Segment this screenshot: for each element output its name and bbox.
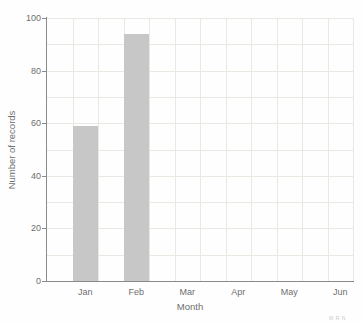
v-gridline — [175, 18, 176, 281]
bar-jan — [73, 126, 99, 281]
bar-feb — [124, 34, 150, 281]
y-tick-mark — [42, 71, 46, 72]
y-tick-mark — [42, 18, 46, 19]
y-tick-label: 40 — [12, 171, 41, 181]
x-tick-label-apr: Apr — [217, 287, 259, 297]
v-gridline — [328, 18, 329, 281]
x-tick-label-mar: Mar — [166, 287, 208, 297]
x-tick-label-may: May — [268, 287, 310, 297]
v-gridline — [200, 18, 201, 281]
y-axis-line — [46, 17, 47, 282]
y-tick-mark — [42, 281, 46, 282]
v-gridline — [251, 18, 252, 281]
v-gridline — [353, 18, 354, 281]
v-gridline — [226, 18, 227, 281]
y-tick-label: 0 — [12, 276, 41, 286]
x-tick-label-feb: Feb — [115, 287, 157, 297]
y-tick-label: 100 — [12, 13, 41, 23]
x-tick-label-jun: Jun — [319, 287, 361, 297]
y-tick-mark — [42, 228, 46, 229]
v-gridline — [302, 18, 303, 281]
v-gridline — [149, 18, 150, 281]
x-axis-line — [46, 281, 354, 282]
v-gridline — [277, 18, 278, 281]
corner-watermark: MRN — [329, 315, 348, 321]
y-tick-mark — [42, 176, 46, 177]
y-tick-mark — [42, 123, 46, 124]
bar-chart-figure: Number of records Month MRN 020406080100… — [0, 0, 363, 323]
y-tick-label: 80 — [12, 66, 41, 76]
v-gridline — [98, 18, 99, 281]
y-tick-label: 20 — [12, 223, 41, 233]
plot-area — [47, 18, 353, 281]
y-tick-label: 60 — [12, 118, 41, 128]
x-axis-title: Month — [177, 301, 203, 312]
x-tick-label-jan: Jan — [64, 287, 106, 297]
